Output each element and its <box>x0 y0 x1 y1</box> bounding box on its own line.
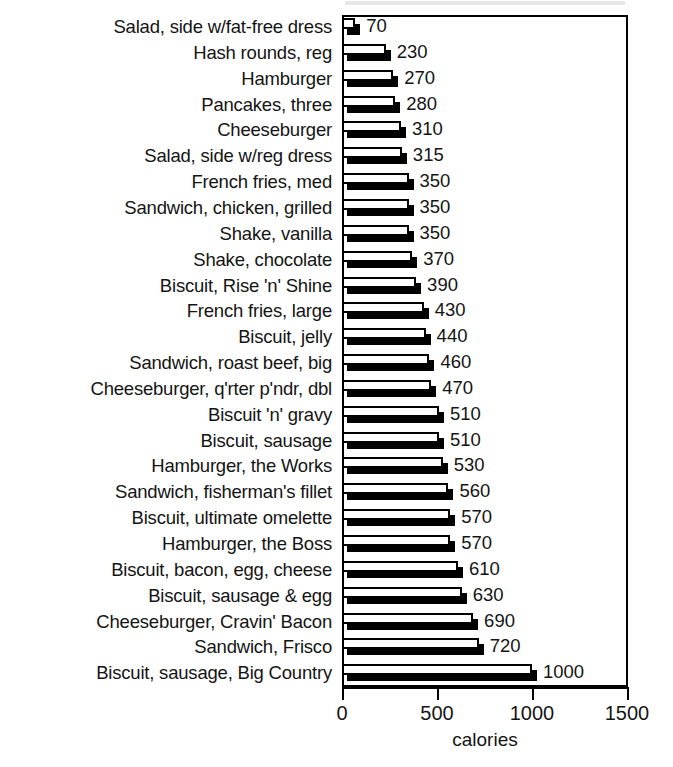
bar[interactable] <box>342 44 386 55</box>
bar[interactable] <box>342 302 424 313</box>
bar[interactable] <box>342 432 439 443</box>
bar-group: 630 <box>342 584 628 610</box>
bar-group: 370 <box>342 248 628 274</box>
bar-value-label: 510 <box>450 429 481 451</box>
category-label: Sandwich, chicken, grilled <box>0 198 332 218</box>
category-label: Salad, side w/fat-free dress <box>0 17 332 37</box>
category-label: Pancakes, three <box>0 95 332 115</box>
bar-group: 430 <box>342 299 628 325</box>
bar[interactable] <box>342 70 393 81</box>
bar-value-label: 370 <box>423 248 454 270</box>
bar-value-label: 315 <box>413 144 444 166</box>
bar-value-label: 230 <box>397 41 428 63</box>
bar-value-label: 690 <box>484 610 515 632</box>
x-axis-tick <box>532 687 534 700</box>
bar[interactable] <box>342 251 412 262</box>
category-label: Cheeseburger, q'rter p'ndr, dbl <box>0 379 332 399</box>
bar[interactable] <box>342 561 458 572</box>
x-axis-tick <box>437 687 439 700</box>
bar-group: 510 <box>342 429 628 455</box>
bar-value-label: 430 <box>435 299 466 321</box>
bar[interactable] <box>342 638 479 649</box>
category-label: Hamburger, the Works <box>0 456 332 476</box>
calories-bar-chart: Salad, side w/fat-free dressHash rounds,… <box>0 0 673 767</box>
bar[interactable] <box>342 406 439 417</box>
bar[interactable] <box>342 483 448 494</box>
x-axis: calories 050010001500 <box>342 687 628 767</box>
bar[interactable] <box>342 328 426 339</box>
bar[interactable] <box>342 173 409 184</box>
bar-value-label: 390 <box>427 274 458 296</box>
bar-group: 350 <box>342 170 628 196</box>
bar-group: 310 <box>342 118 628 144</box>
category-label: French fries, med <box>0 172 332 192</box>
bars-layer: 7023027028031031535035035037039043044046… <box>342 15 628 687</box>
category-label: Biscuit, jelly <box>0 327 332 347</box>
bar[interactable] <box>342 225 409 236</box>
category-label: Biscuit 'n' gravy <box>0 405 332 425</box>
bar[interactable] <box>342 121 401 132</box>
bar-value-label: 530 <box>454 454 485 476</box>
x-axis-tick-label: 1000 <box>492 701 572 725</box>
category-label: Biscuit, sausage <box>0 431 332 451</box>
bar-group: 470 <box>342 377 628 403</box>
category-label: Biscuit, sausage & egg <box>0 586 332 606</box>
x-axis-tick-label: 500 <box>397 701 477 725</box>
category-label: Hash rounds, reg <box>0 43 332 63</box>
bar-value-label: 470 <box>442 377 473 399</box>
bar[interactable] <box>342 509 450 520</box>
bar-group: 570 <box>342 506 628 532</box>
bar-group: 280 <box>342 93 628 119</box>
bar[interactable] <box>342 664 532 675</box>
bar-value-label: 350 <box>420 222 451 244</box>
category-label: Biscuit, bacon, egg, cheese <box>0 560 332 580</box>
scan-artifact-strip <box>345 1 625 5</box>
bar-group: 460 <box>342 351 628 377</box>
bar-group: 610 <box>342 558 628 584</box>
bar-group: 270 <box>342 67 628 93</box>
bar-group: 570 <box>342 532 628 558</box>
bar-value-label: 440 <box>437 325 468 347</box>
bar-value-label: 270 <box>404 67 435 89</box>
category-label: Shake, chocolate <box>0 250 332 270</box>
x-axis-tick <box>342 687 344 700</box>
category-label: Sandwich, fisherman's fillet <box>0 482 332 502</box>
bar-group: 1000 <box>342 661 628 687</box>
x-axis-title: calories <box>342 729 628 751</box>
category-label: Shake, vanilla <box>0 224 332 244</box>
bar-value-label: 1000 <box>543 661 584 683</box>
category-label: Biscuit, ultimate omelette <box>0 508 332 528</box>
bar-value-label: 720 <box>490 635 521 657</box>
bar-value-label: 570 <box>461 506 492 528</box>
bar[interactable] <box>342 199 409 210</box>
category-label: French fries, large <box>0 301 332 321</box>
category-label: Cheeseburger <box>0 120 332 140</box>
bar-value-label: 570 <box>461 532 492 554</box>
bar-group: 315 <box>342 144 628 170</box>
bar-value-label: 280 <box>406 93 437 115</box>
x-axis-tick-label: 1500 <box>587 701 667 725</box>
bar[interactable] <box>342 587 462 598</box>
bar[interactable] <box>342 613 473 624</box>
category-label: Hamburger, the Boss <box>0 534 332 554</box>
bar[interactable] <box>342 535 450 546</box>
x-axis-line <box>342 687 628 689</box>
bar-group: 350 <box>342 222 628 248</box>
bar-value-label: 610 <box>469 558 500 580</box>
bar-group: 70 <box>342 15 628 41</box>
bar[interactable] <box>342 96 395 107</box>
bar[interactable] <box>342 277 416 288</box>
bar[interactable] <box>342 380 431 391</box>
category-label: Biscuit, sausage, Big Country <box>0 663 332 683</box>
category-label: Salad, side w/reg dress <box>0 146 332 166</box>
bar-group: 350 <box>342 196 628 222</box>
bar-value-label: 630 <box>473 584 504 606</box>
bar[interactable] <box>342 354 429 365</box>
bar[interactable] <box>342 457 443 468</box>
bar[interactable] <box>342 147 402 158</box>
x-axis-tick <box>627 687 629 700</box>
bar-group: 690 <box>342 610 628 636</box>
bar-group: 720 <box>342 635 628 661</box>
bar-group: 560 <box>342 480 628 506</box>
bar[interactable] <box>342 18 355 29</box>
